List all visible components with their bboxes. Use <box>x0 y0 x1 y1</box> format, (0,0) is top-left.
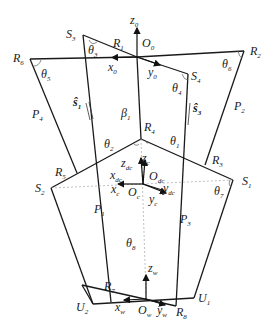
label-y0: y0 <box>147 65 157 81</box>
label-Oc: Oc <box>128 185 141 201</box>
label-theta8: θ8 <box>126 236 136 252</box>
label-s3: ŝ3 <box>192 101 202 117</box>
lower-legs <box>51 180 233 304</box>
label-x0: x0 <box>107 60 117 76</box>
label-R4: R4 <box>143 120 155 136</box>
label-R7: R7 <box>103 279 115 295</box>
label-P3: P3 <box>179 212 191 228</box>
label-theta1: θ1 <box>170 134 179 150</box>
label-R3: R3 <box>211 153 223 169</box>
label-theta3: θ3 <box>88 43 98 59</box>
label-S1: S1 <box>242 174 252 190</box>
label-P2: P2 <box>233 99 245 115</box>
label-R2: R2 <box>249 44 261 60</box>
label-S3: S3 <box>66 27 76 43</box>
label-theta2: θ2 <box>104 137 114 153</box>
xw-axis <box>124 299 146 300</box>
diagram-canvas: z0 R1 O0 x0 y0 S3 θ3 R6 θ5 R2 θ6 S4 θ4 ŝ… <box>0 0 277 330</box>
label-R1: R1 <box>112 36 124 52</box>
label-zdc: zdc <box>120 156 133 172</box>
label-yw: yw <box>156 303 167 319</box>
label-z0: z0 <box>129 13 139 29</box>
y0-axis <box>137 57 160 65</box>
leg-S4-R8 <box>176 74 188 306</box>
s1-marker <box>86 103 90 120</box>
label-zc: zc <box>141 151 151 167</box>
label-beta1: β1 <box>120 106 130 122</box>
label-theta6: θ6 <box>222 57 232 73</box>
label-ydc: ydc <box>162 181 176 197</box>
label-P4: P4 <box>31 107 43 123</box>
label-R5: R5 <box>54 165 66 181</box>
leg-O0-R4 <box>137 57 141 139</box>
label-theta5: θ5 <box>41 67 51 83</box>
label-S4: S4 <box>191 69 201 85</box>
label-yc: yc <box>148 192 158 208</box>
label-R8: R8 <box>175 305 187 321</box>
label-Ow: Ow <box>138 303 152 319</box>
label-P1: P1 <box>93 202 105 218</box>
x0-axis <box>112 57 137 58</box>
label-s1: ŝ1 <box>72 95 81 111</box>
label-R6: R6 <box>12 51 24 67</box>
arc-theta5 <box>34 60 41 66</box>
label-U2: U2 <box>76 300 89 316</box>
label-S2: S2 <box>35 181 45 197</box>
label-O0: O0 <box>142 36 155 52</box>
label-zw: zw <box>147 261 158 277</box>
label-theta7: θ7 <box>214 184 224 200</box>
label-U1: U1 <box>198 291 210 307</box>
label-theta4: θ4 <box>172 81 182 97</box>
s3-marker <box>188 103 190 125</box>
